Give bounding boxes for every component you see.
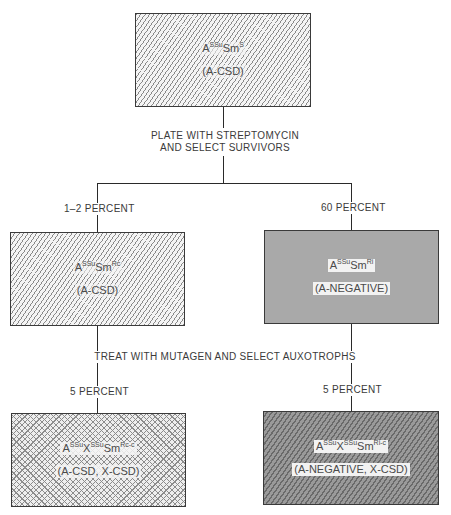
middle-left-genotype: ASSuSmRc	[11, 261, 184, 274]
right-percent-1: 60 PERCENT	[320, 202, 387, 214]
bottom-right-content: ASSuXSSuSmRi-c (A-NEGATIVE, X-CSD)	[264, 440, 438, 476]
connector-left-2	[97, 326, 98, 413]
middle-left-content: ASSuSmRc (A-CSD)	[11, 261, 184, 297]
bottom-left-genotype: ASSuXSSuSmRc-c	[12, 442, 185, 455]
left-percent-1: 1–2 PERCENT	[63, 203, 136, 215]
top-genotype: ASSuSmS	[136, 42, 310, 55]
middle-left-strain-box: ASSuSmRc (A-CSD)	[10, 232, 185, 326]
top-phenotype: (A-CSD)	[200, 65, 246, 78]
top-strain-box: ASSuSmS (A-CSD)	[135, 13, 311, 107]
bottom-left-content: ASSuXSSuSmRc-c (A-CSD, X-CSD)	[12, 442, 185, 478]
bottom-left-phenotype: (A-CSD, X-CSD)	[56, 465, 142, 478]
bottom-right-strain-box: ASSuXSSuSmRi-c (A-NEGATIVE, X-CSD)	[263, 411, 439, 505]
right-percent-2: 5 PERCENT	[322, 384, 383, 396]
top-strain-content: ASSuSmS (A-CSD)	[136, 42, 310, 78]
bottom-left-strain-box: ASSuXSSuSmRc-c (A-CSD, X-CSD)	[11, 413, 186, 507]
step2-label: TREAT WITH MUTAGEN AND SELECT AUXOTROPHS	[92, 351, 358, 363]
step1-label: PLATE WITH STREPTOMYCIN AND SELECT SURVI…	[150, 128, 300, 156]
bottom-right-phenotype: (A-NEGATIVE, X-CSD)	[292, 463, 409, 476]
middle-right-genotype: ASSuSmRi	[265, 259, 438, 272]
middle-right-phenotype: (A-NEGATIVE)	[313, 282, 390, 295]
middle-right-strain-box: ASSuSmRi (A-NEGATIVE)	[264, 230, 439, 324]
bottom-right-genotype: ASSuXSSuSmRi-c	[264, 440, 438, 453]
connector-right-2	[351, 324, 352, 411]
left-percent-2: 5 PERCENT	[69, 386, 130, 398]
middle-right-content: ASSuSmRi (A-NEGATIVE)	[265, 259, 438, 295]
split-line-1	[97, 183, 351, 184]
middle-left-phenotype: (A-CSD)	[75, 284, 121, 297]
